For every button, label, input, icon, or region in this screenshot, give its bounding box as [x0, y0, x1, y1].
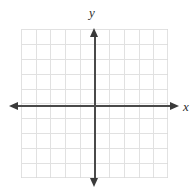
- coordinate-plane-figure: y x: [0, 0, 196, 192]
- x-axis-right-arrow-icon: [170, 102, 179, 110]
- y-axis-up-arrow-icon: [90, 28, 98, 37]
- x-axis-left-arrow-icon: [9, 102, 18, 110]
- y-axis-line: [94, 34, 96, 181]
- grid-right-border: [167, 29, 168, 178]
- y-axis-down-arrow-icon: [90, 178, 98, 187]
- y-axis-label: y: [89, 6, 95, 19]
- x-axis-label: x: [183, 100, 189, 113]
